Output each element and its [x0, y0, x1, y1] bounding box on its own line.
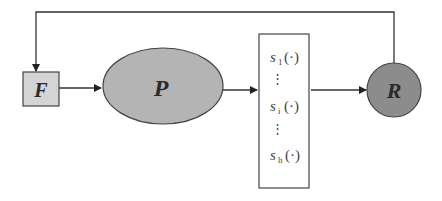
svg-text:s: s: [270, 147, 276, 163]
svg-text:s: s: [270, 49, 276, 65]
ellipsis-2: ⋮: [271, 121, 284, 136]
svg-text:(·): (·): [285, 147, 300, 164]
node-f: F: [23, 72, 59, 106]
feedback-diagram: F P s 1 (·) ⋮ s i (·) ⋮ s h (·) R: [0, 0, 442, 201]
ellipsis-1: ⋮: [271, 71, 284, 86]
svg-text:1: 1: [278, 57, 283, 67]
node-p: P: [103, 48, 223, 124]
svg-text:(·): (·): [284, 49, 299, 66]
node-s-functions: s 1 (·) ⋮ s i (·) ⋮ s h (·): [259, 34, 309, 188]
node-r-label: R: [386, 78, 402, 103]
sh-entry: s h (·): [270, 147, 300, 165]
node-f-label: F: [33, 79, 48, 101]
svg-text:(·): (·): [284, 98, 299, 115]
si-entry: s i (·): [270, 98, 299, 116]
svg-text:s: s: [270, 98, 276, 114]
s1-entry: s 1 (·): [270, 49, 299, 67]
svg-text:h: h: [278, 155, 283, 165]
node-r: R: [367, 63, 421, 117]
node-p-label: P: [153, 75, 169, 101]
feedback-edge-r-to-f: [36, 12, 394, 71]
